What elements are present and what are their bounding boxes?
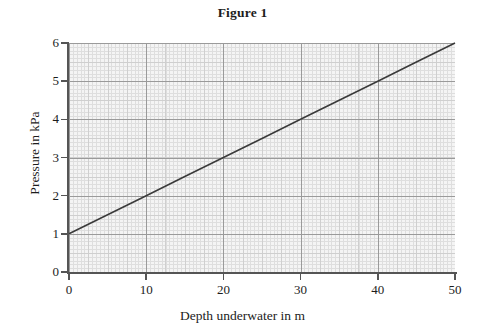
figure-container: Figure 1 0123456 01020304050 Depth under… xyxy=(0,0,485,335)
x-tick-label-0: 0 xyxy=(49,283,89,296)
x-tick-0 xyxy=(68,274,70,280)
x-tick-label-20: 20 xyxy=(203,283,243,296)
x-tick-label-30: 30 xyxy=(281,283,321,296)
y-tick-3 xyxy=(61,157,68,159)
x-axis-spine xyxy=(67,272,457,274)
x-tick-10 xyxy=(145,274,147,280)
x-axis-title: Depth underwater in m xyxy=(0,308,485,324)
y-tick-1 xyxy=(61,233,68,235)
series-line-pressure-vs-depth xyxy=(69,43,455,234)
y-tick-0 xyxy=(61,271,68,273)
y-tick-2 xyxy=(61,195,68,197)
x-tick-40 xyxy=(377,274,379,280)
y-tick-5 xyxy=(61,80,68,82)
x-tick-label-10: 10 xyxy=(126,283,166,296)
chart-title: Figure 1 xyxy=(0,5,485,21)
plot-area xyxy=(69,43,455,272)
x-tick-20 xyxy=(223,274,225,280)
x-tick-50 xyxy=(454,274,456,280)
x-tick-30 xyxy=(300,274,302,280)
y-axis-title: Pressure in kPa xyxy=(27,28,43,278)
y-tick-6 xyxy=(61,42,68,44)
x-tick-label-40: 40 xyxy=(358,283,398,296)
x-tick-label-50: 50 xyxy=(435,283,475,296)
y-tick-4 xyxy=(61,119,68,121)
data-series-svg xyxy=(69,43,455,272)
